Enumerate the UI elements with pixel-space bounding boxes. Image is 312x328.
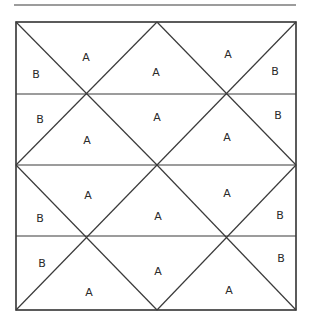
region-label: B <box>274 109 282 122</box>
region-label: A <box>154 210 162 223</box>
region-label: A <box>152 66 160 79</box>
region-label: B <box>36 113 44 126</box>
region-label: A <box>225 284 233 297</box>
region-label: A <box>84 189 92 202</box>
labels: A B A A B B A B A A A A B A B B A B A A <box>32 48 285 299</box>
region-label: A <box>83 134 91 147</box>
region-label: B <box>276 209 284 222</box>
region-label: A <box>154 265 162 278</box>
region-label: A <box>153 111 161 124</box>
region-label: B <box>36 212 44 225</box>
region-label: A <box>223 187 231 200</box>
region-label: A <box>223 131 231 144</box>
region-label: A <box>224 48 232 61</box>
region-label: B <box>271 65 279 78</box>
region-label: B <box>277 252 285 265</box>
triangle-grid-diagram: A B A A B B A B A A A A B A B B A B A A <box>0 0 312 328</box>
region-label: B <box>32 68 40 81</box>
region-label: B <box>38 257 46 270</box>
region-label: A <box>85 286 93 299</box>
region-label: A <box>82 51 90 64</box>
